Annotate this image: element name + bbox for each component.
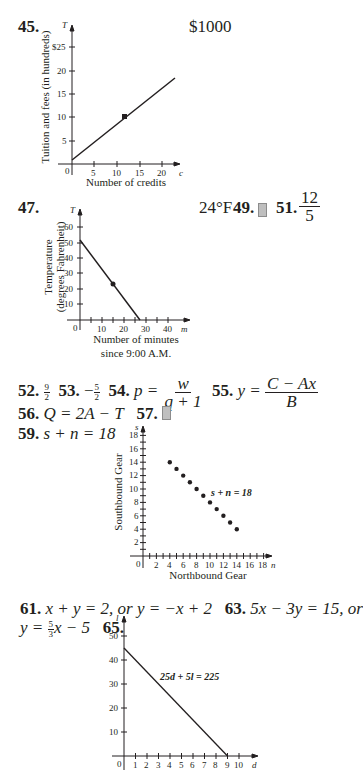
svg-text:6: 6 xyxy=(190,760,195,770)
chart-45: T $25 20 15 10 5 0 5 10 15 20 c Number o… xyxy=(0,0,336,200)
svg-text:0: 0 xyxy=(117,759,122,769)
svg-text:50: 50 xyxy=(109,631,119,641)
y-axis-arrow xyxy=(70,25,74,31)
data-point xyxy=(122,114,127,119)
svg-text:12: 12 xyxy=(129,470,138,480)
svg-text:3: 3 xyxy=(156,760,161,770)
svg-text:15: 15 xyxy=(57,89,67,99)
chart-47: T 60 50 40 30 20 10 0 10 20 30 40 m Numb… xyxy=(0,200,336,360)
svg-text:14: 14 xyxy=(129,457,139,467)
svg-text:8: 8 xyxy=(213,760,218,770)
chart-59: s 18 16 14 12 10 8 6 4 2 0 2 4 6 8 10 12… xyxy=(0,420,336,580)
svg-text:2: 2 xyxy=(134,537,139,547)
svg-text:18: 18 xyxy=(258,560,268,570)
svg-text:4: 4 xyxy=(167,760,172,770)
chart-65: l 50 40 30 20 10 0 1 2 3 4 5 6 7 8 9 10 … xyxy=(0,610,336,778)
svg-text:10: 10 xyxy=(129,484,139,494)
svg-text:0: 0 xyxy=(65,166,70,176)
svg-text:2: 2 xyxy=(154,560,159,570)
svg-text:18: 18 xyxy=(129,430,139,440)
svg-text:Temperature: Temperature xyxy=(42,239,54,295)
svg-text:since 9:00 A.M.: since 9:00 A.M. xyxy=(101,347,172,359)
svg-text:Northbound Gear: Northbound Gear xyxy=(169,569,247,580)
svg-text:10: 10 xyxy=(57,112,67,122)
svg-text:6: 6 xyxy=(134,511,139,521)
svg-text:Southbound Gear: Southbound Gear xyxy=(112,453,124,531)
svg-text:9: 9 xyxy=(225,760,230,770)
svg-text:T: T xyxy=(70,205,76,215)
svg-text:1: 1 xyxy=(133,760,138,770)
svg-text:0: 0 xyxy=(136,559,141,569)
y-tick-25: $25 xyxy=(52,42,66,52)
annotation: 25d + 5l = 225 xyxy=(159,671,219,682)
svg-text:d: d xyxy=(252,760,257,770)
svg-text:5: 5 xyxy=(62,136,67,146)
svg-text:8: 8 xyxy=(134,497,139,507)
svg-text:l: l xyxy=(116,613,119,623)
svg-text:c: c xyxy=(179,168,183,178)
svg-text:(degrees Fahrenheit): (degrees Fahrenheit) xyxy=(54,221,67,312)
x-axis-title: Number of credits xyxy=(86,176,166,188)
svg-text:20: 20 xyxy=(109,703,119,713)
calculator-icon xyxy=(162,406,171,420)
svg-text:40: 40 xyxy=(109,655,119,665)
annotation: s + n = 18 xyxy=(210,487,252,498)
svg-text:n: n xyxy=(271,560,276,570)
svg-text:2: 2 xyxy=(144,760,149,770)
svg-text:5: 5 xyxy=(179,760,184,770)
svg-text:30: 30 xyxy=(109,679,119,689)
svg-text:10: 10 xyxy=(109,727,119,737)
svg-text:10: 10 xyxy=(234,760,244,770)
y-axis-title: Tuition and fees (in hundreds) xyxy=(39,30,52,163)
svg-text:20: 20 xyxy=(57,66,67,76)
svg-text:m: m xyxy=(181,324,188,334)
svg-text:4: 4 xyxy=(134,524,139,534)
svg-text:Number of minutes: Number of minutes xyxy=(93,333,179,345)
svg-text:16: 16 xyxy=(129,444,139,454)
svg-text:7: 7 xyxy=(202,760,207,770)
y-var-label: T xyxy=(62,20,68,30)
svg-text:0: 0 xyxy=(73,323,78,333)
